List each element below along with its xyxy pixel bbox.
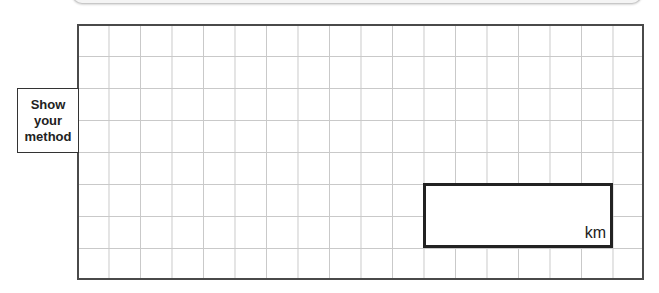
show-your-method-label: Show your method	[17, 88, 79, 153]
method-label-line-2: your	[34, 113, 62, 129]
method-label-line-1: Show	[31, 97, 66, 113]
answer-unit: km	[585, 224, 606, 242]
previous-section-edge	[72, 0, 642, 4]
method-label-line-3: method	[25, 129, 72, 145]
answer-box[interactable]: km	[423, 183, 613, 248]
